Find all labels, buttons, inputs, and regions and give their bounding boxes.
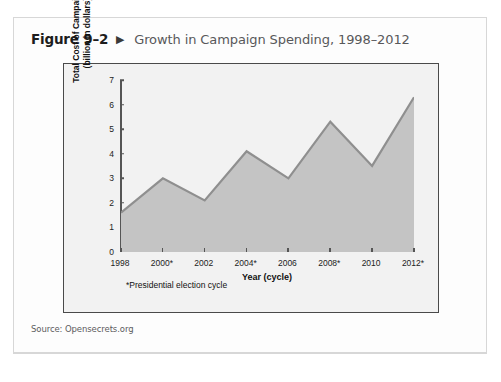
chart-footnote: *Presidential election cycle [126,280,227,290]
y-tick-label: 0 [92,247,120,257]
campaign-spending-area-series [121,80,414,252]
y-tick-label: 3 [92,173,120,183]
x-tick-mark [287,248,289,252]
x-tick-mark [120,248,122,252]
x-tick-label: 2000* [151,258,173,268]
area-fill [121,97,414,252]
x-tick-label: 2004* [234,258,256,268]
x-tick-mark [246,248,248,252]
x-tick-label: 2008* [318,258,340,268]
y-axis-title-line1: Total Cost of Campaigns [71,0,81,83]
x-tick-mark [162,248,164,252]
x-tick-label: 2012* [402,258,424,268]
page-title: Growth in Campaign Spending, 1998–2012 [134,32,410,47]
chart-frame: Total Cost of Campaigns (billion in doll… [63,63,439,313]
x-tick-label: 2002 [194,258,213,268]
figure-card: Figure 9–2 ▶ Growth in Campaign Spending… [13,17,487,354]
x-tick-mark [329,248,331,252]
y-tick-label: 4 [92,149,120,159]
y-tick-label: 7 [92,75,120,85]
card-bottom-divider [14,352,486,353]
x-tick-label: 2006 [278,258,297,268]
arrow-right-icon: ▶ [116,34,124,45]
x-tick-label: 1998 [111,258,130,268]
y-axis-title-line2: (billion in dollars) [82,0,92,68]
plot-area: 7 6 5 4 3 2 1 0 [120,80,414,252]
x-tick-mark [371,248,373,252]
x-tick-mark [204,248,206,252]
source-line: Source: Opensecrets.org [31,324,133,334]
y-tick-label: 2 [92,198,120,208]
y-tick-label: 5 [92,124,120,134]
y-tick-label: 6 [92,100,120,110]
x-tick-mark [413,248,415,252]
y-tick-label: 1 [92,222,120,232]
y-axis-title: Total Cost of Campaigns (billion in doll… [69,0,95,108]
x-tick-label: 2010 [362,258,381,268]
